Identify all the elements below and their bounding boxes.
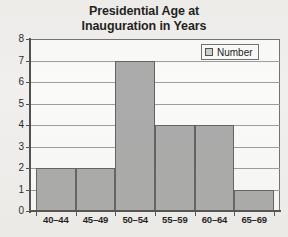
legend-label-number: Number	[217, 47, 253, 58]
y-tick-label: 5	[0, 99, 24, 109]
bar	[76, 168, 116, 211]
x-tick-label: 45–49	[76, 214, 116, 225]
x-tick-label: 50–54	[115, 214, 155, 225]
gridline	[30, 82, 280, 83]
chart-title-line-2: Inauguration in Years	[0, 19, 288, 34]
x-tick-label: 65–69	[234, 214, 274, 225]
x-tick-mark	[234, 212, 235, 216]
bar	[36, 168, 76, 211]
legend-swatch-icon	[205, 48, 213, 56]
bar	[234, 190, 274, 212]
x-tick-label: 40–44	[36, 214, 76, 225]
chart-legend: Number	[201, 44, 259, 60]
bar	[115, 61, 155, 212]
y-axis-line	[29, 38, 31, 213]
y-tick-label: 0	[0, 206, 24, 216]
bar	[195, 125, 235, 211]
x-tick-label: 60–64	[195, 214, 235, 225]
y-tick-label: 4	[0, 120, 24, 130]
gridline	[30, 61, 280, 62]
y-tick-label: 3	[0, 142, 24, 152]
gridline	[30, 104, 280, 105]
x-tick-mark	[155, 212, 156, 216]
chart-plot-area	[30, 39, 280, 211]
y-tick-label: 6	[0, 77, 24, 87]
x-tick-label: 55–59	[155, 214, 195, 225]
y-tick-label: 2	[0, 163, 24, 173]
x-tick-mark	[36, 212, 37, 216]
y-tick-label: 8	[0, 34, 24, 44]
bar	[155, 125, 195, 211]
chart-title-line-1: Presidential Age at	[0, 4, 288, 19]
y-tick-label: 7	[0, 56, 24, 66]
x-tick-mark	[195, 212, 196, 216]
y-tick-label: 1	[0, 185, 24, 195]
x-tick-mark	[115, 212, 116, 216]
x-tick-mark	[274, 212, 275, 216]
x-tick-mark	[76, 212, 77, 216]
chart-title: Presidential Age at Inauguration in Year…	[0, 4, 288, 34]
